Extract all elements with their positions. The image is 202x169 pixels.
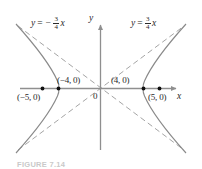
equation-left-fraction: 3 4 xyxy=(53,16,59,31)
vertex-left-point xyxy=(57,87,61,91)
origin-label: 0 xyxy=(93,92,98,101)
focus-left-point xyxy=(41,87,45,91)
y-axis-label: y xyxy=(89,14,93,24)
focus-right-label: (5, 0) xyxy=(148,93,166,102)
equation-right-operator: = xyxy=(137,19,142,29)
equation-left-variable: x xyxy=(60,19,64,29)
vertex-right-label: (4, 0) xyxy=(111,76,129,85)
equation-right-variable: x xyxy=(152,19,156,29)
vertex-right-point xyxy=(142,87,146,91)
x-axis-label: x xyxy=(177,92,181,102)
equation-left-numerator: 3 xyxy=(53,16,59,23)
figure-caption: FIGURE 7.14 xyxy=(17,160,65,169)
equation-left-denominator: 4 xyxy=(53,24,59,31)
equation-left-sign: − xyxy=(46,19,51,29)
asymptote-right-equation-label: y = 3 4 x xyxy=(131,16,156,31)
equation-right-denominator: 4 xyxy=(145,24,151,31)
hyperbola-figure: y = − 3 4 x y = 3 4 x (−4, 0) (4, 0) (−5… xyxy=(0,0,202,169)
equation-right-fraction: 3 4 xyxy=(145,16,151,31)
equation-left-lhs: y xyxy=(31,19,35,29)
equation-right-lhs: y xyxy=(131,19,135,29)
equation-right-numerator: 3 xyxy=(145,16,151,23)
focus-left-label: (−5, 0) xyxy=(17,93,40,102)
equation-left-operator: = xyxy=(37,19,42,29)
vertex-left-label: (−4, 0) xyxy=(57,76,80,85)
focus-right-point xyxy=(158,87,162,91)
asymptote-left-equation-label: y = − 3 4 x xyxy=(31,16,65,31)
